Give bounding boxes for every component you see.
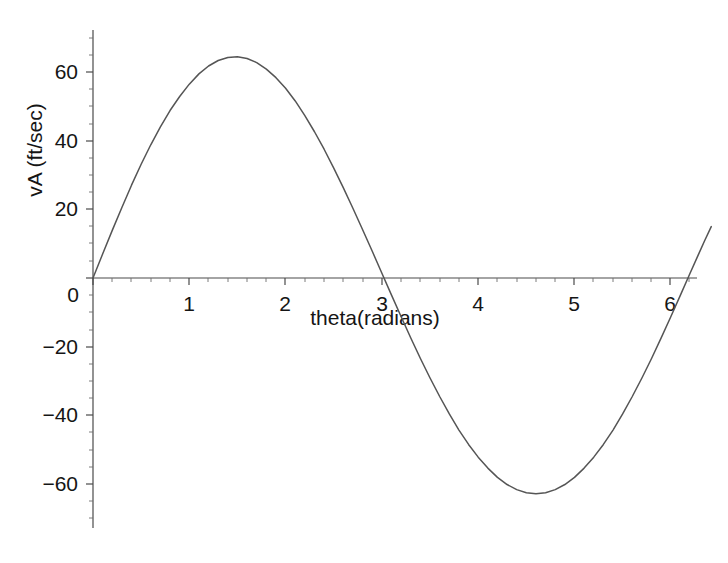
y-axis-major-ticks — [86, 72, 93, 484]
y-tick-label-40: 40 — [55, 129, 78, 152]
y-tick-label-neg20: −20 — [42, 335, 78, 358]
x-tick-label-5: 5 — [568, 292, 580, 315]
chart-plot-area: 0 1 2 3 4 5 6 60 40 20 −20 −40 −60 theta… — [0, 0, 728, 563]
x-tick-label-1: 1 — [183, 292, 195, 315]
y-axis-title: vA (ft/sec) — [23, 103, 46, 196]
y-tick-label-20: 20 — [55, 197, 78, 220]
y-tick-label-neg60: −60 — [42, 472, 78, 495]
x-tick-label-0: 0 — [67, 283, 79, 306]
y-tick-label-60: 60 — [55, 60, 78, 83]
x-axis-title: theta(radians) — [310, 306, 440, 329]
x-tick-label-2: 2 — [279, 292, 291, 315]
x-axis-major-ticks — [93, 278, 670, 285]
data-series-curve — [93, 57, 711, 494]
chart-figure: 0 1 2 3 4 5 6 60 40 20 −20 −40 −60 theta… — [0, 0, 728, 563]
x-tick-label-4: 4 — [472, 292, 484, 315]
y-tick-label-neg40: −40 — [42, 403, 78, 426]
x-tick-label-6: 6 — [664, 292, 676, 315]
